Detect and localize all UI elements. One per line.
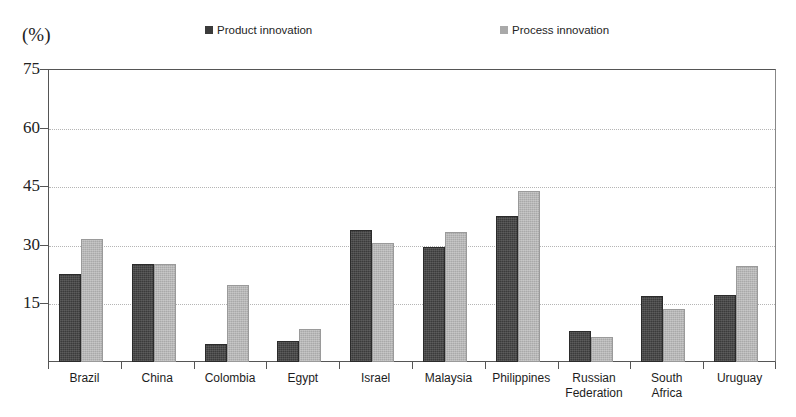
bar-product bbox=[423, 247, 445, 362]
bar-process bbox=[445, 232, 467, 362]
x-axis-tick-mark bbox=[121, 362, 122, 369]
x-axis-tick-mark bbox=[266, 362, 267, 369]
bar-group bbox=[412, 69, 485, 362]
bar-group bbox=[703, 69, 776, 362]
bar-process bbox=[736, 266, 758, 362]
x-axis-category-label: China bbox=[142, 371, 173, 386]
y-axis-tick-mark bbox=[40, 128, 48, 129]
x-axis-category-label: Brazil bbox=[69, 371, 99, 386]
legend-swatch-process-icon bbox=[500, 26, 508, 34]
bar-process bbox=[372, 243, 394, 362]
x-axis-category-label: SouthAfrica bbox=[651, 371, 682, 401]
y-axis-tick-label: 60 bbox=[0, 118, 40, 138]
x-axis-category-label: Egypt bbox=[287, 371, 318, 386]
y-axis-tick-label: 15 bbox=[0, 293, 40, 313]
x-axis-category-label: Colombia bbox=[205, 371, 256, 386]
bar-product bbox=[350, 230, 372, 362]
y-axis-tick-mark bbox=[40, 245, 48, 246]
legend-label-process: Process innovation bbox=[512, 24, 609, 36]
bar-product bbox=[714, 295, 736, 362]
x-axis-tick-mark bbox=[630, 362, 631, 369]
bar-product bbox=[132, 264, 154, 362]
y-axis-tick-label: 75 bbox=[0, 59, 40, 79]
legend-swatch-product-icon bbox=[205, 26, 213, 34]
x-axis-tick-mark bbox=[558, 362, 559, 369]
chart-legend: Product innovation Process innovation bbox=[205, 24, 655, 44]
x-axis-tick-mark bbox=[703, 362, 704, 369]
bar-group bbox=[266, 69, 339, 362]
legend-label-product: Product innovation bbox=[217, 24, 312, 36]
bar-process bbox=[591, 337, 613, 362]
bar-process bbox=[81, 239, 103, 362]
bar-product bbox=[277, 341, 299, 362]
x-axis-category-label: RussianFederation bbox=[565, 371, 622, 401]
bar-product bbox=[496, 216, 518, 363]
y-axis-tick-mark bbox=[40, 186, 48, 187]
bar-group bbox=[339, 69, 412, 362]
bar-product bbox=[569, 331, 591, 362]
legend-entry-process: Process innovation bbox=[500, 24, 609, 36]
bars-layer bbox=[48, 69, 776, 362]
x-axis-tick-mark bbox=[485, 362, 486, 369]
bar-process bbox=[663, 309, 685, 362]
x-axis-tick-mark bbox=[194, 362, 195, 369]
x-axis-ticks bbox=[48, 362, 776, 369]
bar-product bbox=[59, 274, 81, 362]
y-axis-unit-label: (%) bbox=[22, 24, 50, 46]
x-axis-tick-mark bbox=[775, 362, 776, 369]
bar-process bbox=[518, 191, 540, 362]
bar-group bbox=[630, 69, 703, 362]
x-axis-category-label: Philippines bbox=[492, 371, 550, 386]
x-axis-labels: BrazilChinaColombiaEgyptIsraelMalaysiaPh… bbox=[48, 371, 776, 415]
bar-group bbox=[558, 69, 631, 362]
bar-group bbox=[485, 69, 558, 362]
bar-group bbox=[121, 69, 194, 362]
bar-group bbox=[194, 69, 267, 362]
x-axis-category-label: Malaysia bbox=[425, 371, 472, 386]
legend-entry-product: Product innovation bbox=[205, 24, 312, 36]
x-axis-tick-mark bbox=[412, 362, 413, 369]
y-axis-tick-mark bbox=[40, 303, 48, 304]
x-axis-tick-mark bbox=[48, 362, 49, 369]
bar-process bbox=[154, 264, 176, 362]
bar-group bbox=[48, 69, 121, 362]
x-axis-category-label: Uruguay bbox=[717, 371, 762, 386]
y-axis-tick-label: 45 bbox=[0, 176, 40, 196]
bar-process bbox=[299, 329, 321, 362]
x-axis-tick-mark bbox=[339, 362, 340, 369]
bar-chart-figure: (%) Product innovation Process innovatio… bbox=[0, 0, 796, 417]
x-axis-category-label: Israel bbox=[361, 371, 390, 386]
bar-product bbox=[205, 344, 227, 362]
y-axis-tick-label: 30 bbox=[0, 235, 40, 255]
bar-process bbox=[227, 285, 249, 362]
bar-product bbox=[641, 296, 663, 362]
y-axis-tick-mark bbox=[40, 69, 48, 70]
